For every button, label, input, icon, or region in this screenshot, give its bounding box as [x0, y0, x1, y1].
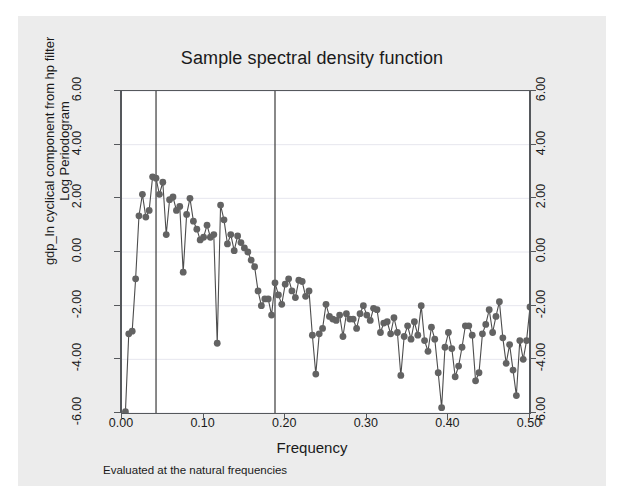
data-point: [251, 263, 258, 270]
data-point: [513, 392, 520, 399]
data-point: [234, 233, 241, 240]
data-point: [455, 363, 462, 370]
data-point: [425, 348, 432, 355]
data-point: [319, 325, 326, 332]
data-point: [472, 377, 479, 384]
data-point: [221, 216, 228, 223]
data-point: [292, 294, 299, 301]
data-point: [285, 275, 292, 282]
graph-canvas: Sample spectral density function gdp_ln …: [18, 16, 606, 486]
data-point: [132, 275, 139, 282]
y-tick-mark: [529, 197, 536, 198]
data-point: [391, 314, 398, 321]
data-point: [129, 328, 136, 335]
data-point: [482, 321, 489, 328]
data-point: [438, 404, 445, 411]
data-point: [459, 344, 466, 351]
y-axis-tick-label-right: -4.00: [534, 331, 548, 383]
data-point: [272, 279, 279, 286]
y-tick-mark: [529, 305, 536, 306]
data-point: [210, 231, 217, 238]
axis-spine-vertical: [529, 90, 530, 412]
y-tick-mark: [529, 358, 536, 359]
data-point: [353, 325, 360, 332]
data-point: [136, 212, 143, 219]
data-point: [384, 318, 391, 325]
data-point: [340, 333, 347, 340]
data-point: [275, 292, 282, 299]
data-point: [367, 317, 374, 324]
x-axis-label: Frequency: [18, 439, 606, 456]
x-tick-mark: [121, 414, 122, 420]
data-point: [411, 318, 418, 325]
data-point: [421, 337, 428, 344]
data-point: [193, 226, 200, 233]
data-point: [159, 179, 166, 186]
data-point: [170, 194, 177, 201]
data-point: [153, 175, 160, 182]
y-tick-mark: [529, 251, 536, 252]
data-point: [510, 367, 517, 374]
data-point: [397, 372, 404, 379]
data-point: [431, 336, 438, 343]
y-axis-tick-label: -4.00: [70, 331, 84, 383]
y-axis-tick-label-right: -2.00: [534, 278, 548, 330]
data-point: [312, 371, 319, 378]
data-point: [401, 333, 408, 340]
data-point: [414, 332, 421, 339]
plot-svg: [122, 91, 530, 413]
data-point: [289, 288, 296, 295]
data-point: [248, 257, 255, 264]
y-tick-mark: [529, 412, 536, 413]
y-tick-mark: [529, 90, 536, 91]
axis-spine-vertical: [120, 90, 121, 412]
data-point: [520, 356, 527, 363]
data-point: [278, 301, 285, 308]
data-point: [139, 191, 146, 198]
axis-spine-horizontal: [121, 413, 529, 414]
data-point: [404, 322, 411, 329]
data-point: [258, 302, 265, 309]
data-point: [469, 332, 476, 339]
gridlines: [122, 91, 530, 413]
data-point: [336, 312, 343, 319]
data-point: [357, 310, 364, 317]
data-point: [479, 330, 486, 337]
data-point: [146, 207, 153, 214]
x-tick-mark: [284, 414, 285, 420]
x-tick-mark: [529, 414, 530, 420]
y-axis-tick-label: 2.00: [70, 170, 84, 222]
data-point: [445, 329, 452, 336]
chart-note: Evaluated at the natural frequencies: [103, 464, 287, 476]
data-point: [465, 322, 472, 329]
data-point: [268, 312, 275, 319]
data-point: [190, 218, 197, 225]
x-tick-mark: [447, 414, 448, 420]
y-axis-label-line-1: gdp_ln cyclical component from hp filter: [43, 0, 58, 311]
chart-title: Sample spectral density function: [18, 48, 606, 69]
data-point: [309, 332, 316, 339]
data-point: [486, 306, 493, 313]
chart-page: Sample spectral density function gdp_ln …: [0, 0, 624, 501]
data-point: [360, 302, 367, 309]
data-point: [323, 301, 330, 308]
data-point: [176, 203, 183, 210]
data-point: [448, 345, 455, 352]
y-tick-mark: [529, 144, 536, 145]
data-point: [387, 330, 394, 337]
data-point: [156, 191, 163, 198]
data-point: [499, 334, 506, 341]
data-point: [408, 336, 415, 343]
x-tick-mark: [366, 414, 367, 420]
data-point: [506, 341, 513, 348]
data-point: [183, 211, 190, 218]
y-axis-tick-label-right: 6.00: [534, 63, 548, 115]
y-axis-tick-label-right: 4.00: [534, 117, 548, 169]
data-point: [418, 302, 425, 309]
y-axis-tick-label-right: 0.00: [534, 224, 548, 276]
y-tick-mark: [114, 412, 121, 413]
data-point: [187, 195, 194, 202]
data-point: [489, 329, 496, 336]
data-point: [374, 306, 381, 313]
data-point: [163, 231, 170, 238]
